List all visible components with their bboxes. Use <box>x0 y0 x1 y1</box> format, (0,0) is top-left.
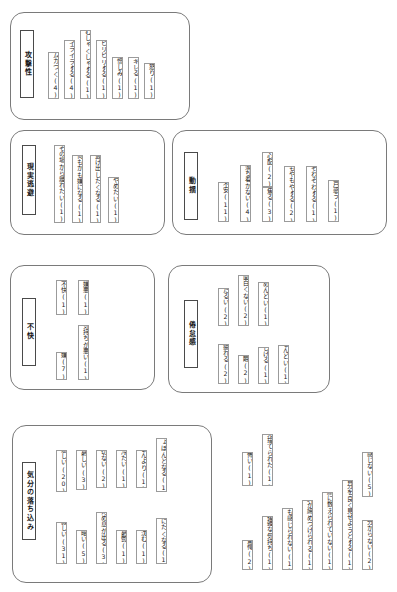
emotion-chip[interactable]: 胸が締めつけられる(1) <box>302 500 313 570</box>
emotion-chip[interactable]: ムカつく(4) <box>48 52 59 99</box>
group-header-escapism: 現実逃避 <box>22 145 36 215</box>
group-container-agitation <box>172 130 387 235</box>
group-header-agitation: 動揺 <box>184 152 198 220</box>
emotion-chip[interactable]: 憎しみ(1) <box>112 57 123 99</box>
emotion-chip[interactable]: 感じない(5) <box>362 452 373 497</box>
emotion-chip[interactable]: 何も感じられない(1) <box>282 508 293 570</box>
emotion-chip[interactable]: ピリピリする(1) <box>96 40 107 99</box>
emotion-chip[interactable]: イライラする(4) <box>64 40 75 99</box>
emotion-chip[interactable]: 暗い(5) <box>76 530 87 564</box>
emotion-chip[interactable]: 落ち着かない(4) <box>240 165 251 222</box>
emotion-chip[interactable]: もやもやする(2) <box>284 166 295 222</box>
group-header-lethargy: 倦怠感 <box>184 300 198 368</box>
emotion-chip[interactable]: その場から離れたい(1) <box>54 145 65 223</box>
emotion-chip[interactable]: 分からない(2) <box>362 520 373 570</box>
emotion-chip[interactable]: 怖い(1) <box>242 452 253 486</box>
emotion-chip[interactable]: 嫌悪(1) <box>78 280 89 315</box>
emotion-chip[interactable]: 怒り(1) <box>144 63 155 99</box>
emotion-chip[interactable]: ため息が出る(3) <box>96 512 107 564</box>
emotion-chip[interactable]: 憂しい(3) <box>76 450 87 490</box>
emotion-chip[interactable]: 驚愕(2) <box>242 540 253 570</box>
emotion-chip[interactable]: 気持ちが悪い(1) <box>78 325 89 380</box>
emotion-chip[interactable]: しょぼんとなる(1) <box>156 438 167 492</box>
emotion-chip[interactable]: 悲しい(20) <box>56 450 67 492</box>
emotion-chip[interactable]: 嫌(7) <box>56 352 67 380</box>
emotion-chip[interactable]: 疲れる(2) <box>218 344 229 384</box>
emotion-chip[interactable]: 戸惑う(1) <box>328 180 339 222</box>
emotion-chip[interactable]: 顔に数えられていない(1) <box>322 492 333 570</box>
emotion-chip[interactable]: そわそわする(1) <box>306 166 317 222</box>
emotion-chip[interactable]: どんより(1) <box>136 450 147 488</box>
emotion-chip[interactable]: 沈む(1) <box>136 530 147 564</box>
emotion-chip[interactable]: 切ない(2) <box>96 450 107 488</box>
group-header-discomfort: 不快 <box>22 298 36 366</box>
emotion-chip[interactable]: 自分を良く見せようとする(1) <box>342 480 353 570</box>
emotion-chip[interactable]: 冷たい(1) <box>116 450 127 488</box>
group-container-depressed-mood <box>12 425 212 583</box>
emotion-chip[interactable]: 面白くない(2) <box>238 275 249 326</box>
emotion-chip[interactable]: やめたい(1) <box>108 177 119 223</box>
emotion-chip[interactable]: しける(1) <box>258 347 269 384</box>
emotion-chip[interactable]: しんどい(1) <box>278 345 289 384</box>
emotion-chip[interactable]: 焦る(3) <box>262 187 273 222</box>
cluster-diagram-canvas: 攻撃性ムカつく(4)イライラする(4)むしゃくしゃする(1)ピリピリする(1)憎… <box>0 0 397 592</box>
emotion-chip[interactable]: めんどい(1) <box>258 282 269 326</box>
emotion-chip[interactable]: 眠(2) <box>238 355 249 384</box>
group-header-aggression: 攻撃性 <box>20 30 34 98</box>
emotion-chip[interactable]: 不安(11) <box>218 182 229 222</box>
emotion-chip[interactable]: キレる(1) <box>128 57 139 99</box>
emotion-chip[interactable]: 見捨てられた(1) <box>262 434 273 486</box>
emotion-chip[interactable]: だるい(2) <box>218 288 229 326</box>
emotion-chip[interactable]: 憂鬱(1) <box>116 530 127 564</box>
emotion-chip[interactable]: 不快(1) <box>56 280 67 315</box>
emotion-chip[interactable]: むしゃくしゃする(1) <box>80 30 91 99</box>
group-header-depressed-mood: 気分の落ち込み <box>22 462 36 540</box>
emotion-chip[interactable]: 死にたくなる(1) <box>156 518 167 564</box>
emotion-chip[interactable]: 逃げ出したくなる(1) <box>90 155 101 223</box>
emotion-chip[interactable]: 心配(2) <box>262 152 273 187</box>
emotion-chip[interactable]: 複雑な気持ち(1) <box>262 516 273 570</box>
emotion-chip[interactable]: 寂しい(31) <box>56 522 67 564</box>
emotion-chip[interactable]: 何もかも嫌になる(1) <box>72 155 83 223</box>
